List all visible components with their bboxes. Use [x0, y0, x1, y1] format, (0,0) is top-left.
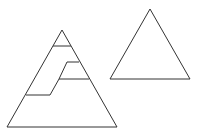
right-triangle-group	[110, 9, 190, 79]
left-triangle-lower-slant	[50, 79, 59, 95]
diagram-canvas	[0, 0, 198, 137]
left-triangle-group	[7, 30, 117, 127]
left-triangle-upper-slant	[59, 62, 67, 79]
right-triangle-outline	[110, 9, 190, 79]
